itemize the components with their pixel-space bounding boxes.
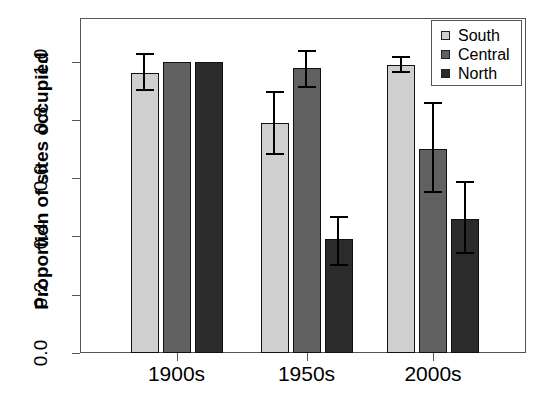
legend-label-north: North [458, 64, 497, 83]
legend-item[interactable]: Central [441, 45, 521, 64]
legend: South Central North [431, 20, 522, 86]
error-bar-cap-bottom [392, 71, 410, 73]
y-axis-tick-label: 0.2 [30, 272, 52, 318]
error-bar-north-1950s [330, 216, 348, 266]
error-bar-stem [273, 91, 275, 155]
error-bar-cap-bottom [330, 264, 348, 266]
error-bar-south-1900s [136, 53, 154, 91]
y-axis-tick [72, 353, 80, 354]
error-bar-central-2000s [424, 102, 442, 192]
cropped-caption-sliver [30, 392, 520, 400]
legend-swatch-central-icon [441, 50, 450, 59]
error-bar-cap-bottom [298, 86, 316, 88]
x-axis-tick-label: 1950s [247, 362, 367, 386]
y-axis-tick-label: 0.0 [30, 330, 52, 376]
y-axis-tick [72, 62, 80, 63]
y-axis-tick [72, 295, 80, 296]
error-bar-stem [432, 102, 434, 192]
y-axis-tick [72, 236, 80, 237]
error-bar-central-1950s [298, 50, 316, 88]
error-bar-cap-bottom [424, 191, 442, 193]
legend-swatch-north-icon [441, 69, 450, 78]
bar-north-1900s [195, 62, 223, 353]
y-axis-tick [72, 178, 80, 179]
x-axis-tick [177, 353, 178, 361]
bar-south-2000s [387, 65, 415, 353]
error-bar-stem [143, 53, 145, 91]
bar-central-1950s [293, 68, 321, 353]
error-bar-south-2000s [392, 56, 410, 73]
legend-item[interactable]: South [441, 26, 521, 45]
y-axis-tick-label: 0.6 [30, 155, 52, 201]
x-axis-tick [433, 353, 434, 361]
legend-label-central: Central [458, 45, 510, 64]
chart-figure: Proportion of sites occupied 0.00.20.40.… [0, 0, 545, 400]
error-bar-stem [305, 50, 307, 88]
y-axis-tick-label: 0.8 [30, 97, 52, 143]
legend-swatch-south-icon [441, 31, 450, 40]
error-bar-cap-bottom [136, 89, 154, 91]
y-axis-tick [72, 120, 80, 121]
x-axis-tick [307, 353, 308, 361]
x-axis-tick-label: 2000s [373, 362, 493, 386]
legend-item[interactable]: North [441, 64, 521, 83]
error-bar-cap-bottom [266, 153, 284, 155]
y-axis-tick-label: 0.4 [30, 213, 52, 259]
y-axis-tick-label: 1.0 [30, 39, 52, 85]
error-bar-north-2000s [456, 181, 474, 254]
error-bar-stem [464, 181, 466, 254]
error-bar-cap-bottom [456, 252, 474, 254]
bar-south-1950s [261, 123, 289, 353]
bar-south-1900s [131, 73, 159, 353]
legend-label-south: South [458, 26, 500, 45]
bar-central-1900s [163, 62, 191, 353]
error-bar-south-1950s [266, 91, 284, 155]
error-bar-stem [337, 216, 339, 266]
x-axis-tick-label: 1900s [117, 362, 237, 386]
